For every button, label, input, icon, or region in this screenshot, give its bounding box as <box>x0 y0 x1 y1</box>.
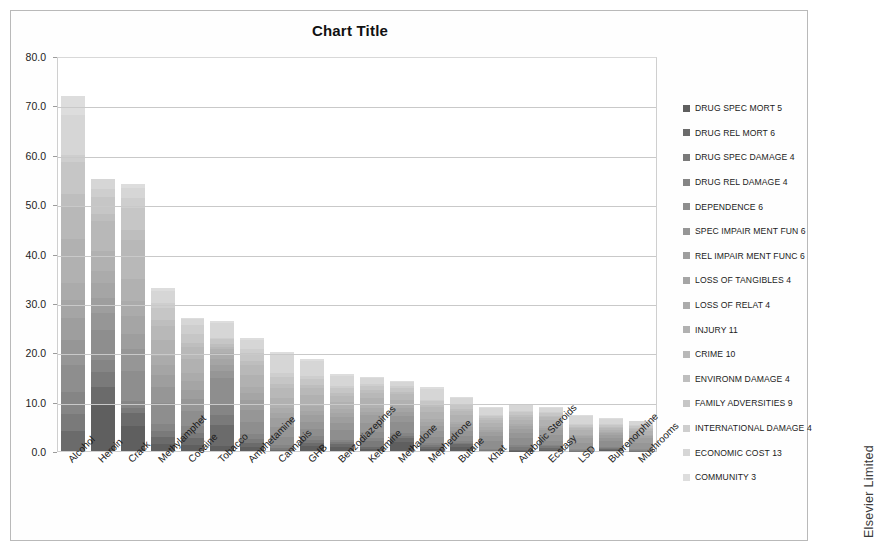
bar-segment <box>61 194 85 206</box>
bar-segment <box>121 413 145 426</box>
bar-segment <box>121 371 145 401</box>
legend-swatch <box>683 449 690 456</box>
bar-segment <box>240 400 264 410</box>
bar-segment <box>91 387 115 404</box>
bar-segment <box>61 414 85 431</box>
legend-swatch <box>683 179 690 186</box>
legend-item[interactable]: INJURY 11 <box>683 317 858 342</box>
bar-segment <box>151 308 175 320</box>
bar-column[interactable] <box>330 58 354 451</box>
y-axis-tick-label: 50.0 <box>0 199 46 211</box>
bar-segment <box>121 279 145 301</box>
bar-column[interactable] <box>210 58 234 451</box>
bar-segment <box>181 359 205 373</box>
bar-column[interactable] <box>61 58 85 451</box>
legend-item[interactable]: DRUG REL DAMAGE 4 <box>683 170 858 195</box>
bar-segment <box>181 399 205 410</box>
legend-item[interactable]: LOSS OF RELAT 4 <box>683 293 858 318</box>
bar-segment <box>121 334 145 350</box>
legend-label: ECONOMIC COST 13 <box>695 448 782 458</box>
bar-column[interactable] <box>300 58 324 451</box>
y-axis-tick-label: 10.0 <box>0 397 46 409</box>
bar-column[interactable] <box>450 58 474 451</box>
legend-label: DRUG SPEC DAMAGE 4 <box>695 152 795 162</box>
legend-item[interactable]: ENVIRONM DAMAGE 4 <box>683 367 858 392</box>
legend-item[interactable]: REL IMPAIR MENT FUNC 6 <box>683 244 858 269</box>
stacked-bar[interactable] <box>61 96 85 452</box>
bar-segment <box>210 405 234 415</box>
stacked-bar[interactable] <box>330 374 354 451</box>
bar-segment <box>210 323 234 338</box>
legend-item[interactable]: INTERNATIONAL DAMAGE 4 <box>683 416 858 441</box>
bar-column[interactable] <box>360 58 384 451</box>
bar-segment <box>151 375 175 387</box>
plot-area <box>57 57 657 452</box>
legend-item[interactable]: DEPENDENCE 6 <box>683 194 858 219</box>
bar-segment <box>61 340 85 365</box>
legend-item[interactable]: SPEC IMPAIR MENT FUN 6 <box>683 219 858 244</box>
legend-label: REL IMPAIR MENT FUNC 6 <box>695 251 805 261</box>
y-axis-tick-mark <box>53 403 57 404</box>
bar-segment <box>240 365 264 375</box>
legend-item[interactable]: LOSS OF TANGIBLES 4 <box>683 268 858 293</box>
bar-column[interactable] <box>539 58 563 451</box>
legend-item[interactable]: CRIME 10 <box>683 342 858 367</box>
stacked-bar[interactable] <box>91 179 115 451</box>
gridline <box>58 404 656 405</box>
bar-segment <box>181 325 205 333</box>
bar-segment <box>91 313 115 330</box>
legend-label: LOSS OF RELAT 4 <box>695 300 770 310</box>
y-axis-tick-mark <box>53 255 57 256</box>
y-axis-tick-label: 30.0 <box>0 298 46 310</box>
bar-column[interactable] <box>599 58 623 451</box>
bar-column[interactable] <box>420 58 444 451</box>
bar-segment <box>61 239 85 283</box>
bar-segment <box>300 388 324 395</box>
bar-segment <box>61 115 85 155</box>
legend-item[interactable]: DRUG SPEC DAMAGE 4 <box>683 145 858 170</box>
bar-segment <box>91 372 115 387</box>
bar-segment <box>270 377 294 384</box>
legend-item[interactable]: DRUG SPEC MORT 5 <box>683 96 858 121</box>
legend-item[interactable]: DRUG REL MORT 6 <box>683 121 858 146</box>
bar-segment <box>91 221 115 251</box>
stacked-bar[interactable] <box>121 184 145 451</box>
stacked-bar[interactable] <box>151 288 175 451</box>
bar-column[interactable] <box>151 58 175 451</box>
bar-column[interactable] <box>629 58 653 451</box>
bar-column[interactable] <box>509 58 533 451</box>
bar-segment <box>91 271 115 283</box>
bar-segment <box>61 300 85 317</box>
bar-column[interactable] <box>91 58 115 451</box>
bar-column[interactable] <box>240 58 264 451</box>
bar-segment <box>210 371 234 378</box>
bar-segment <box>420 412 444 419</box>
bar-column[interactable] <box>270 58 294 451</box>
bar-segment <box>210 378 234 405</box>
legend-swatch <box>683 375 690 382</box>
bar-column[interactable] <box>479 58 503 451</box>
legend-item[interactable]: ECONOMIC COST 13 <box>683 440 858 465</box>
legend-label: LOSS OF TANGIBLES 4 <box>695 275 791 285</box>
legend-item[interactable]: COMMUNITY 3 <box>683 465 858 490</box>
bar-segment <box>151 387 175 403</box>
gridline <box>58 354 656 355</box>
bar-segment <box>181 373 205 381</box>
chart-title: Chart Title <box>0 22 700 39</box>
legend-label: DRUG SPEC MORT 5 <box>695 103 782 113</box>
legend-swatch <box>683 252 690 259</box>
y-axis-tick-label: 60.0 <box>0 150 46 162</box>
bar-column[interactable] <box>121 58 145 451</box>
y-axis-tick-label: 40.0 <box>0 249 46 261</box>
bar-segment <box>240 410 264 422</box>
legend-item[interactable]: FAMILY ADVERSITIES 9 <box>683 391 858 416</box>
legend-swatch <box>683 302 690 309</box>
stacked-bar[interactable] <box>210 321 234 451</box>
bar-column[interactable] <box>181 58 205 451</box>
bar-column[interactable] <box>390 58 414 451</box>
y-axis-tick-mark <box>53 205 57 206</box>
bar-segment <box>91 214 115 221</box>
gridline <box>58 305 656 306</box>
bar-column[interactable] <box>569 58 593 451</box>
legend-swatch <box>683 129 690 136</box>
